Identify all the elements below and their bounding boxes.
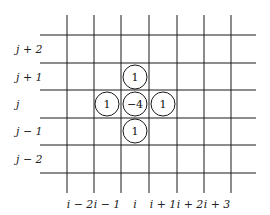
stencil-node-center: −4 [123,92,147,116]
node-weight: −4 [127,98,143,111]
stencil-diagram: j + 2j + 1jj − 1j − 2 i − 2i − 1ii + 1i … [0,0,270,215]
column-label: i + 3 [204,198,231,211]
column-label: i + 2 [177,198,204,211]
row-label: j − 1 [13,125,43,138]
node-weight: 1 [104,98,111,111]
column-label: i − 2 [67,198,94,211]
node-weight: 1 [132,125,139,138]
stencil-node-right: 1 [151,92,175,116]
grid-lines [40,15,256,193]
row-labels: j + 2j + 1jj − 1j − 2 [13,43,43,166]
node-weight: 1 [160,98,167,111]
column-label: i + 1 [150,198,177,211]
column-label: i − 1 [94,198,121,211]
stencil-nodes: 11−411 [95,65,175,143]
row-label: j + 1 [13,71,43,84]
row-label: j − 2 [13,153,43,166]
row-label: j + 2 [13,43,43,56]
stencil-node-bottom: 1 [123,119,147,143]
column-labels: i − 2i − 1ii + 1i + 2i + 3 [67,198,231,211]
column-label: i [133,198,137,211]
stencil-node-left: 1 [95,92,119,116]
stencil-node-top: 1 [123,65,147,89]
row-label: j [13,98,20,111]
node-weight: 1 [132,71,139,84]
